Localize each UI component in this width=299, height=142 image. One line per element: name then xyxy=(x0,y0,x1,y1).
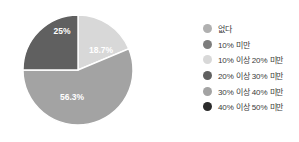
chart-legend: 없다10% 미만10% 이상 20% 미만20% 이상 30% 미만30% 이상… xyxy=(203,21,299,115)
pie-chart-figure: 18.7%56.3%25% 없다10% 미만10% 이상 20% 미만20% 이… xyxy=(0,0,299,142)
pie-plot-area: 18.7%56.3%25% xyxy=(0,0,180,142)
legend-item-label: 10% 미만 xyxy=(218,39,250,50)
legend-item[interactable]: 10% 미만 xyxy=(203,37,299,53)
pie-slice xyxy=(23,15,78,70)
legend-item-label: 없다 xyxy=(218,23,232,34)
pie-slices-group xyxy=(23,15,133,125)
legend-swatch-icon xyxy=(203,55,212,64)
legend-swatch-icon xyxy=(203,102,212,111)
legend-item[interactable]: 10% 이상 20% 미만 xyxy=(203,52,299,68)
legend-item-label: 30% 이상 40% 미만 xyxy=(218,86,283,97)
legend-item[interactable]: 40% 이상 50% 미만 xyxy=(203,99,299,115)
legend-item-label: 40% 이상 50% 미만 xyxy=(218,101,283,112)
pie-slice-label: 25% xyxy=(53,26,70,36)
legend-swatch-icon xyxy=(203,40,212,49)
legend-swatch-icon xyxy=(203,24,212,33)
pie-slice-label: 56.3% xyxy=(60,92,85,102)
legend-item[interactable]: 30% 이상 40% 미만 xyxy=(203,83,299,99)
legend-item[interactable]: 없다 xyxy=(203,21,299,37)
pie-slice-label: 18.7% xyxy=(89,45,114,55)
legend-item-label: 10% 이상 20% 미만 xyxy=(218,54,283,65)
legend-item[interactable]: 20% 이상 30% 미만 xyxy=(203,68,299,84)
legend-swatch-icon xyxy=(203,71,212,80)
pie-svg: 18.7%56.3%25% xyxy=(0,0,180,142)
legend-item-label: 20% 이상 30% 미만 xyxy=(218,70,283,81)
legend-swatch-icon xyxy=(203,87,212,96)
